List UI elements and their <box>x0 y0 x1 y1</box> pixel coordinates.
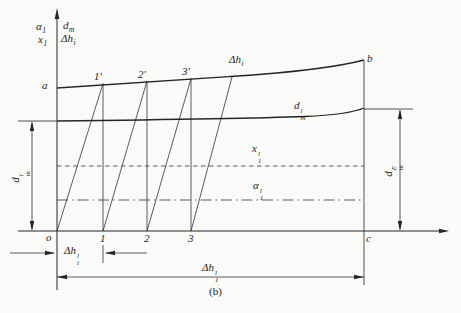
curve-dhi-sub: i <box>241 59 243 68</box>
alpha1-base: α <box>36 20 42 32</box>
dim-dm-left-sub: m <box>24 171 31 176</box>
x1l-base: x <box>252 142 257 154</box>
curve-dm-sub: m <box>301 115 306 122</box>
dim-dm-right-sub: m <box>397 165 404 170</box>
alpha1l-base: α <box>253 179 259 191</box>
point-label-a: a <box>42 80 48 91</box>
dim-dm-right-base: d <box>382 171 394 177</box>
dhi-sub: i <box>73 38 75 47</box>
dhi-base: Δh <box>61 32 73 44</box>
curve-label-dhi: Δhi <box>229 54 244 69</box>
point-label-2-prime: 2′ <box>138 69 146 80</box>
dm-base: d <box>63 19 69 31</box>
dim-dh-total-base: Δh <box>202 261 214 273</box>
dim-label-dhi: Δhli <box>64 245 79 266</box>
point-label-3-prime: 3′ <box>182 66 190 77</box>
x1l-sub: 1 <box>258 158 262 165</box>
alpha1l-sub: 1 <box>260 195 264 202</box>
label-x1l: xl1 <box>252 143 261 164</box>
dim-label-dm-left: dlm <box>10 171 31 183</box>
x-axis-arrow-icon <box>439 229 449 234</box>
axis-label-x1: x1 <box>38 34 47 49</box>
curve-dhi-base: Δh <box>229 53 241 65</box>
point-label-c: c <box>366 233 371 244</box>
curve-dm-base: d <box>294 99 300 111</box>
point-label-b: b <box>367 53 373 64</box>
dim-dh-total-sub: 1 <box>215 277 219 284</box>
axis-point-3: 3 <box>188 233 194 244</box>
axis-point-2: 2 <box>144 233 150 244</box>
dim-dhi-base: Δh <box>64 244 76 256</box>
x1-sub: 1 <box>43 39 47 48</box>
axis-label-dhi: Δhi <box>61 33 76 48</box>
figure-caption: (b) <box>209 286 222 297</box>
point-label-1-prime: 1′ <box>94 71 102 82</box>
dim-dm-left-base: d <box>9 177 21 183</box>
dim-label-dm-right: dEm <box>383 165 404 177</box>
y-axis-arrow-icon <box>55 8 60 19</box>
label-alpha1l: αl1 <box>253 180 263 201</box>
axis-point-1: 1 <box>100 233 106 244</box>
point-label-o: o <box>46 232 52 243</box>
dim-label-dh-total: Δhl1 <box>202 262 218 283</box>
curve-label-dm: dlm <box>294 100 306 121</box>
figure-b-diagram: α1 x1 dm Δhi Δhi dlm xl1 αl1 a b o c 1′ … <box>0 0 461 313</box>
dim-dhi-sub: i <box>77 260 79 267</box>
construction-lines <box>57 77 232 231</box>
